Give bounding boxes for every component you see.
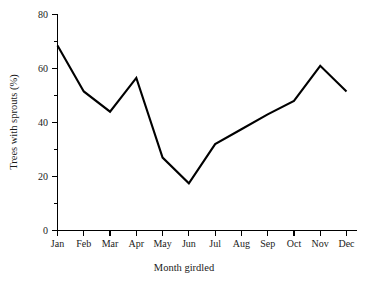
y-axis-tick-labels: 0 20 40 60 80 [38, 9, 48, 236]
x-axis-tick-labels: JanFebMarAprMayJunJulAugSepOctNovDec [51, 238, 355, 249]
x-tick-label-may: May [153, 238, 171, 249]
line-chart: 0 20 40 60 80 JanFebMarAprMayJunJulAugSe… [0, 0, 367, 282]
x-tick-label-dec: Dec [338, 238, 355, 249]
data-series-line [58, 46, 347, 184]
x-tick-label-oct: Oct [287, 238, 302, 249]
y-axis-major-ticks [52, 15, 58, 231]
x-tick-label-apr: Apr [129, 238, 145, 249]
y-tick-label-40: 40 [38, 117, 48, 128]
x-tick-label-jan: Jan [51, 238, 64, 249]
x-tick-label-jun: Jun [182, 238, 196, 249]
y-axis-title: Trees with sprouts (%) [8, 74, 20, 170]
chart-axes [58, 15, 357, 231]
y-tick-label-60: 60 [38, 63, 48, 74]
chart-figure: 0 20 40 60 80 JanFebMarAprMayJunJulAugSe… [0, 0, 367, 282]
x-tick-label-nov: Nov [312, 238, 329, 249]
x-axis-title: Month girdled [154, 262, 215, 273]
x-tick-label-aug: Aug [233, 238, 250, 249]
x-tick-label-jul: Jul [209, 238, 221, 249]
y-tick-label-0: 0 [43, 225, 48, 236]
y-tick-label-20: 20 [38, 171, 48, 182]
x-tick-label-feb: Feb [76, 238, 91, 249]
x-axis-ticks [58, 231, 347, 236]
x-tick-label-sep: Sep [260, 238, 275, 249]
y-tick-label-80: 80 [38, 9, 48, 20]
x-tick-label-mar: Mar [102, 238, 119, 249]
